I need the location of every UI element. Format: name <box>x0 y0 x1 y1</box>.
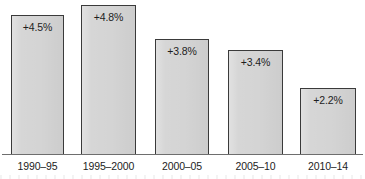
x-axis-label-2005-10: 2005–10 <box>228 160 283 173</box>
bar-chart: +4.5% +4.8% +3.8% +3.4% +2.2% 1990–95 19… <box>0 0 365 179</box>
x-axis-label-1990-95: 1990–95 <box>11 160 64 173</box>
bar-2005-10: +3.4% <box>228 50 283 155</box>
bar-shading <box>156 40 208 155</box>
bar-2000-05: +3.8% <box>155 39 209 155</box>
bar-1990-95: +4.5% <box>11 15 64 155</box>
x-axis-line <box>2 154 363 155</box>
bar-value-label: +2.2% <box>301 94 355 106</box>
scan-edge-artifact <box>0 175 365 179</box>
bar-1995-2000: +4.8% <box>81 5 136 155</box>
bar-2010-14: +2.2% <box>300 88 356 155</box>
bar-value-label: +4.5% <box>12 21 63 33</box>
bar-value-label: +3.8% <box>156 45 208 57</box>
bar-shading <box>12 16 63 155</box>
x-axis-label-2010-14: 2010–14 <box>300 160 356 173</box>
x-axis-label-2000-05: 2000–05 <box>155 160 209 173</box>
x-axis-label-1995-2000: 1995–2000 <box>77 160 140 173</box>
bar-value-label: +3.4% <box>229 56 282 68</box>
bar-value-label: +4.8% <box>82 11 135 23</box>
bar-shading <box>82 6 135 155</box>
plot-area: +4.5% +4.8% +3.8% +3.4% +2.2% <box>0 0 365 156</box>
